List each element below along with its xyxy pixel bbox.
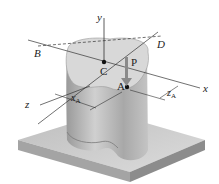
label-x: x	[202, 82, 208, 94]
label-za: zA	[166, 87, 176, 100]
column-diagram: y x z B D C A P xA zA	[0, 0, 219, 184]
label-d: D	[156, 38, 165, 50]
label-a: A	[117, 80, 125, 92]
label-z: z	[24, 98, 30, 110]
label-p: P	[131, 56, 137, 68]
label-y: y	[96, 11, 102, 23]
label-b: B	[34, 47, 41, 59]
point-a	[125, 85, 129, 89]
label-c: C	[100, 65, 107, 77]
point-c	[102, 60, 106, 64]
